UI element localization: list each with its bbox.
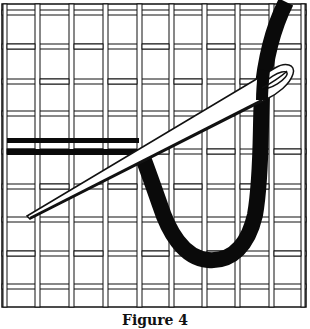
figure-caption: Figure 4 — [0, 311, 310, 329]
needlepoint-illustration — [0, 0, 310, 310]
